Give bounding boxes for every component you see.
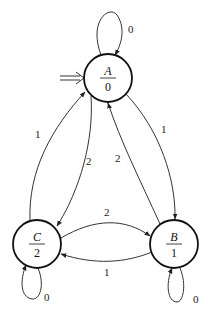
- state-C: C 2: [13, 220, 61, 268]
- label-C-A: 1: [35, 128, 41, 140]
- state-diagram: 0 1 2 2 1 2 1 0 0 A 0 B 1 C 2: [0, 0, 216, 319]
- transition-C-A: [30, 92, 85, 221]
- state-C-output: 2: [34, 246, 40, 260]
- state-A: A 0: [84, 54, 132, 102]
- label-C-C: 0: [44, 291, 50, 303]
- label-B-C: 1: [104, 266, 110, 278]
- label-A-B: 1: [161, 123, 167, 135]
- state-C-name: C: [33, 230, 42, 244]
- transition-A-B: [126, 94, 175, 219]
- state-B-name: B: [170, 230, 178, 244]
- transition-B-C: [61, 252, 152, 261]
- state-A-output: 0: [105, 80, 111, 94]
- label-B-B: 0: [193, 293, 199, 305]
- label-A-A: 0: [128, 23, 134, 35]
- state-B: B 1: [150, 220, 198, 268]
- label-A-C: 2: [86, 155, 92, 167]
- transition-C-B: [61, 223, 150, 238]
- label-B-A: 2: [115, 152, 121, 164]
- transition-B-B: [168, 268, 184, 302]
- state-B-output: 1: [171, 246, 177, 260]
- transition-C-C: [22, 265, 41, 299]
- transition-A-A: [97, 12, 122, 55]
- label-C-B: 2: [104, 206, 110, 218]
- start-arrow-icon: [60, 72, 84, 84]
- state-A-name: A: [103, 64, 112, 78]
